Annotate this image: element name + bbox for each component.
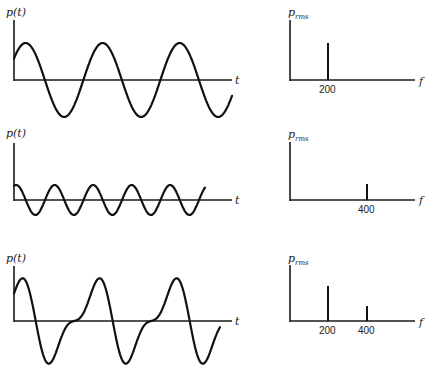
tick-label-200: 200 xyxy=(319,325,336,336)
spectrum-plot-1: prms f 200 xyxy=(288,6,425,95)
y-axis-label: p(t) xyxy=(6,127,26,140)
x-axis-label: t xyxy=(235,194,240,207)
time-plot-2: p(t) t xyxy=(6,127,240,215)
tick-label-400: 400 xyxy=(358,204,375,215)
x-axis-label: f xyxy=(418,194,425,207)
y-axis-label: prms xyxy=(288,128,309,143)
y-axis-label: p(t) xyxy=(6,252,26,265)
y-axis-label: prms xyxy=(288,6,309,21)
y-axis-label: prms xyxy=(288,252,309,267)
y-axis-label: p(t) xyxy=(6,6,26,19)
tick-label-400: 400 xyxy=(358,325,375,336)
spectrum-plot-3: prms f 200 400 xyxy=(288,252,425,336)
x-axis-label: f xyxy=(418,316,425,329)
tick-label-200: 200 xyxy=(319,84,336,95)
x-axis-label: f xyxy=(418,75,425,88)
x-axis-label: t xyxy=(235,74,240,87)
time-plot-3: p(t) t xyxy=(6,252,240,364)
figure: p(t) t prms f 200 p(t) t prms f 400 p(t)… xyxy=(0,0,431,376)
time-plot-1: p(t) t xyxy=(6,6,240,117)
spectrum-plot-2: prms f 400 xyxy=(288,128,425,215)
x-axis-label: t xyxy=(235,315,240,328)
